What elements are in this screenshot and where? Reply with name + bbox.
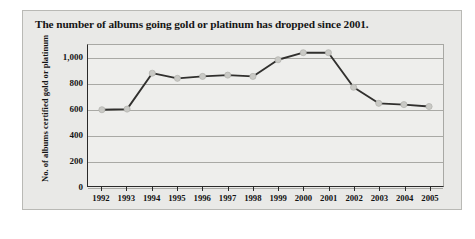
x-tick (430, 187, 431, 191)
y-tick-label: 800 (70, 78, 84, 88)
x-tick-label: 2002 (345, 193, 362, 203)
x-tick-label: 1998 (244, 193, 261, 203)
x-tick-label: 1996 (194, 193, 211, 203)
x-tick (152, 187, 153, 191)
x-tick (177, 187, 178, 191)
data-point (250, 73, 256, 79)
data-point (99, 107, 105, 113)
x-axis-ticks (87, 187, 444, 192)
x-tick (303, 187, 304, 191)
x-tick (354, 187, 355, 191)
data-point (426, 103, 432, 109)
data-point (351, 84, 357, 90)
x-tick (126, 187, 127, 191)
data-point (200, 73, 206, 79)
data-point (275, 57, 281, 63)
data-point (174, 75, 180, 81)
x-tick-label: 1994 (143, 193, 160, 203)
x-tick (405, 187, 406, 191)
data-point (124, 106, 130, 112)
y-tick-label: 1,000 (63, 52, 83, 62)
data-point (225, 72, 231, 78)
data-point (325, 50, 331, 56)
series-line-chart (88, 45, 443, 186)
plot-area (87, 44, 444, 187)
y-tick-label: 400 (70, 130, 84, 140)
x-tick (278, 187, 279, 191)
x-tick (379, 187, 380, 191)
chart-title: The number of albums going gold or plati… (35, 18, 369, 30)
x-tick-label: 1999 (269, 193, 286, 203)
x-tick-label: 2003 (371, 193, 388, 203)
data-point (149, 70, 155, 76)
x-tick-label: 2004 (396, 193, 413, 203)
x-tick (329, 187, 330, 191)
chart-figure: The number of albums going gold or plati… (22, 10, 462, 210)
x-tick-label: 2005 (421, 193, 438, 203)
y-axis-tick-labels: 02004006008001,000 (41, 44, 83, 187)
data-point (300, 50, 306, 56)
y-tick-label: 0 (79, 182, 84, 192)
x-tick-label: 2001 (320, 193, 337, 203)
x-tick-label: 2000 (295, 193, 312, 203)
x-tick-label: 1993 (118, 193, 135, 203)
y-tick-label: 600 (70, 104, 84, 114)
data-point (376, 100, 382, 106)
y-tick-label: 200 (70, 156, 84, 166)
x-tick-label: 1992 (92, 193, 109, 203)
x-tick-label: 1997 (219, 193, 236, 203)
x-tick (202, 187, 203, 191)
x-tick (101, 187, 102, 191)
x-axis-tick-labels: 1992199319941995199619971998199920002001… (87, 193, 444, 207)
series-markers (99, 50, 432, 113)
data-point (401, 102, 407, 108)
x-tick (253, 187, 254, 191)
x-tick (228, 187, 229, 191)
x-tick-label: 1995 (168, 193, 185, 203)
